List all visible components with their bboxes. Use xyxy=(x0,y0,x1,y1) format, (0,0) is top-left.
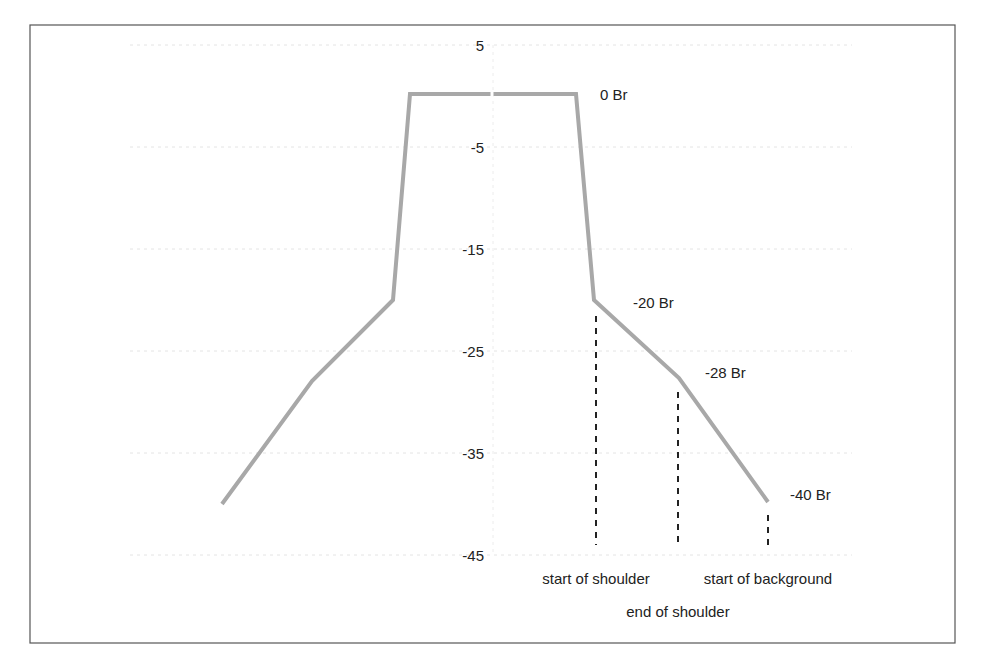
y-tick-label: -35 xyxy=(462,445,484,462)
y-tick-label: -5 xyxy=(471,139,484,156)
y-tick-label: -15 xyxy=(462,241,484,258)
point-labels: 0 Br -20 Br -28 Br -40 Br xyxy=(600,86,831,503)
chart-canvas: 5 -5 -15 -25 -35 -45 0 Br -20 Br -28 Br … xyxy=(0,0,984,662)
y-tick-label: -25 xyxy=(462,343,484,360)
point-label-neg20br: -20 Br xyxy=(633,294,674,311)
point-label-0br: 0 Br xyxy=(600,86,628,103)
annotation-end-of-shoulder: end of shoulder xyxy=(626,603,729,620)
y-tick-label: -45 xyxy=(462,547,484,564)
annotation-start-of-background: start of background xyxy=(704,570,832,587)
annotation-start-of-shoulder: start of shoulder xyxy=(542,570,650,587)
annotations: start of shoulder end of shoulder start … xyxy=(542,570,832,620)
point-label-neg28br: -28 Br xyxy=(705,364,746,381)
spectrum-mask-line xyxy=(222,94,768,504)
y-tick-label: 5 xyxy=(476,37,484,54)
y-tick-labels: 5 -5 -15 -25 -35 -45 xyxy=(462,37,484,564)
shoulder-markers xyxy=(596,316,768,545)
point-label-neg40br: -40 Br xyxy=(790,486,831,503)
